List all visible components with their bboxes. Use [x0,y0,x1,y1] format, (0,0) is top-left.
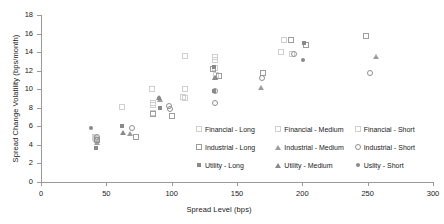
data-point [92,134,98,140]
x-tick [433,182,434,186]
x-tick [106,182,107,186]
data-point [212,89,216,93]
data-point [212,75,218,80]
data-point [212,65,216,69]
data-point [363,33,369,39]
data-point [260,70,266,76]
legend-label: Utility - Long [205,162,244,169]
x-tick [41,182,42,186]
x-tick-label: 50 [86,189,126,198]
x-tick [172,182,173,186]
legend-label: Financial - Long [205,126,255,133]
chart-legend: Financial - LongFinancial - MediumFinanc… [196,120,434,176]
data-point [119,104,125,110]
legend-marker-icon [275,144,281,150]
x-tick [302,182,303,186]
legend-label: Utility - Medium [284,162,332,169]
legend-label: Financial - Short [364,126,415,133]
y-axis-title: Spread Change Volatility (bps/month) [11,14,20,184]
data-point [212,54,218,60]
data-point [166,103,172,109]
legend-item[interactable]: Industrial - Short [355,144,434,151]
data-point [150,100,156,106]
data-point [150,102,156,108]
legend-item[interactable]: Utility - Medium [275,162,354,169]
data-point [156,95,162,100]
legend-item[interactable]: Financial - Long [196,126,275,133]
legend-item[interactable]: Financial - Short [355,126,434,133]
legend-marker-icon [355,162,361,168]
data-point [212,88,218,94]
data-point [212,65,218,71]
data-point [120,130,126,135]
data-point [367,70,373,76]
data-point [259,75,265,81]
data-point [92,135,98,141]
data-point [94,137,100,143]
data-point [260,70,266,76]
x-tick-label: 250 [348,189,388,198]
data-point [129,125,135,131]
legend-item[interactable]: Industrial - Long [196,144,275,151]
data-point [213,72,219,78]
legend-item[interactable]: Financial - Medium [275,126,354,133]
legend-marker-icon [275,162,281,168]
legend-marker-icon [196,162,202,168]
data-point [258,85,264,90]
legend-label: Industrial - Short [364,144,415,151]
data-point [182,86,188,92]
legend-marker-icon [355,126,361,132]
data-point [158,106,162,110]
legend-item[interactable]: Uslity - Short [355,162,434,169]
data-point [302,41,306,45]
x-tick-label: 0 [21,189,61,198]
x-tick-label: 150 [217,189,257,198]
data-point [89,126,93,130]
data-point [127,131,133,136]
data-point [291,51,297,57]
data-point [93,136,99,142]
data-point [157,97,163,102]
legend-label: Uslity - Short [364,162,404,169]
legend-label: Financial - Medium [284,126,343,133]
x-tick-label: 300 [413,189,444,198]
x-tick-label: 100 [152,189,192,198]
data-point [301,58,305,62]
data-point [94,140,100,145]
x-axis-title: Spread Level (bps) [0,205,438,214]
data-point [212,57,218,63]
data-point [289,51,295,57]
data-point [150,110,156,116]
data-point [94,146,98,150]
data-point [157,96,161,100]
data-point [182,53,188,59]
data-point [216,73,222,79]
legend-marker-icon [355,144,361,150]
data-point [94,134,100,140]
x-tick [368,182,369,186]
data-point [133,134,139,140]
data-point [373,54,379,59]
data-point [169,113,175,119]
legend-marker-icon [196,126,202,132]
data-point [149,86,155,92]
legend-label: Industrial - Long [205,144,255,151]
data-point [212,75,218,80]
data-point [120,124,124,128]
data-point [210,66,216,72]
legend-item[interactable]: Utility - Long [196,162,275,169]
x-tick-label: 200 [282,189,322,198]
data-point [182,95,188,101]
legend-marker-icon [196,144,202,150]
data-point [281,37,287,43]
legend-label: Industrial - Medium [284,144,344,151]
data-point [150,111,156,117]
data-point [212,100,218,106]
legend-item[interactable]: Industrial - Medium [275,144,354,151]
data-point [288,37,294,43]
data-point [278,49,284,55]
x-tick [237,182,238,186]
data-point [180,94,186,100]
legend-marker-icon [275,126,281,132]
